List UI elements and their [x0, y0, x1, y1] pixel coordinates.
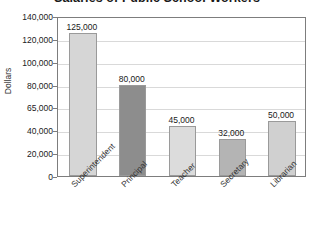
bar-chart: Salaries of Public School Workers Dollar…: [0, 0, 314, 241]
y-axis-tick-label: 0: [0, 172, 53, 182]
y-axis-tick-label: 80,000: [0, 81, 53, 91]
bar-value-label: 45,000: [169, 115, 195, 125]
bar: [69, 33, 96, 176]
y-axis-tick-label: 20,000: [0, 149, 53, 159]
chart-title: Salaries of Public School Workers: [0, 0, 314, 5]
y-axis-tick-label: 140,000: [0, 12, 53, 22]
y-axis-tick-label: 100,000: [0, 58, 53, 68]
y-axis-tick-mark: [53, 177, 57, 178]
y-axis-tick-label: 65,000: [0, 103, 53, 113]
bar-value-label: 125,000: [67, 22, 98, 32]
y-axis-tick-label: 40,000: [0, 126, 53, 136]
plot-area: [57, 17, 306, 177]
bar-value-label: 50,000: [268, 110, 294, 120]
bar-value-label: 32,000: [218, 128, 244, 138]
bar-value-label: 80,000: [119, 74, 145, 84]
y-axis-tick-label: 120,000: [0, 35, 53, 45]
